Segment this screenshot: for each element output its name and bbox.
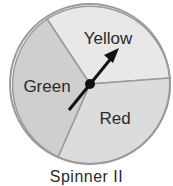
label-yellow: Yellow (84, 29, 133, 48)
label-green: Green (23, 77, 70, 96)
spinner-diagram: Yellow Green Red (0, 0, 173, 186)
spinner-caption: Spinner II (0, 168, 173, 186)
label-red: Red (99, 109, 130, 128)
